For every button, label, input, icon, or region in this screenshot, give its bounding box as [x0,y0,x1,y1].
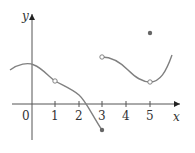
open-circle-x3 [100,55,104,59]
tick-label-5: 5 [146,109,154,123]
tick-label-3: 3 [98,109,106,123]
origin-label: 0 [22,109,30,123]
isolated-point-x5 [148,31,152,35]
y-axis-label: y [21,9,29,23]
tick-label-1: 1 [51,109,59,123]
tick-label-4: 4 [122,109,130,123]
curve-right-piece [102,55,172,82]
open-circle-x5 [148,80,152,84]
function-graph: y x 0 1 2 3 4 5 [0,0,195,153]
tick-label-2: 2 [75,109,83,123]
closed-dot-x3 [100,128,104,132]
open-circle-x1 [53,79,57,83]
x-axis-label: x [173,110,180,124]
